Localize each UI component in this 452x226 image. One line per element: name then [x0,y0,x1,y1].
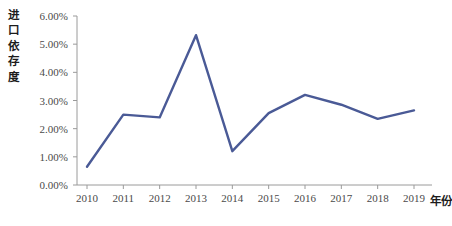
x-tick-label: 2012 [149,192,171,204]
x-tick-label: 2011 [113,192,135,204]
x-tick-label: 2016 [294,192,316,204]
x-axis-title: 年份 [430,192,452,208]
x-tick-label: 2013 [185,192,207,204]
x-tick-label: 2010 [76,192,98,204]
x-tick-label: 2019 [403,192,425,204]
x-tick-label: 2018 [367,192,389,204]
x-tick-label: 2017 [330,192,352,204]
x-tick-label: 2015 [258,192,280,204]
x-tick-label: 2014 [221,192,243,204]
